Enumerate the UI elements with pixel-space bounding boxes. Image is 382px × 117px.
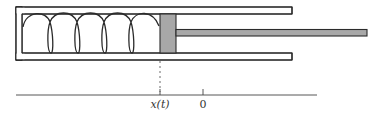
axis-label-position: x(t)	[150, 98, 169, 111]
cylinder-bottom-wall	[16, 53, 292, 60]
piston-rod	[176, 30, 367, 37]
axis-label-origin: 0	[200, 98, 207, 111]
piston	[160, 14, 176, 53]
spring-piston-diagram: x(t) 0	[0, 0, 382, 117]
spring	[23, 13, 159, 53]
cylinder-top-wall	[16, 7, 292, 14]
